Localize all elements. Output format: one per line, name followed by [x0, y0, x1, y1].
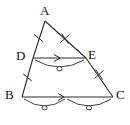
length-arc-bc-right: [67, 99, 111, 106]
length-arc-de: [35, 60, 84, 67]
vertex-label-b: B: [5, 88, 14, 101]
vertex-label-c: C: [116, 88, 125, 101]
vertex-label-d: D: [16, 49, 25, 62]
length-arc-bc-right-marker: [86, 106, 91, 110]
geometry-diagram: A B C D E: [0, 0, 130, 125]
segment-ec: [86, 58, 113, 97]
tick-mark-db: [23, 74, 32, 81]
length-arc-bc-left-marker: [42, 106, 47, 110]
length-arc-de-marker: [57, 67, 62, 71]
vertex-label-a: A: [40, 4, 49, 17]
vertex-label-e: E: [88, 48, 96, 61]
segment-ad: [33, 21, 45, 58]
